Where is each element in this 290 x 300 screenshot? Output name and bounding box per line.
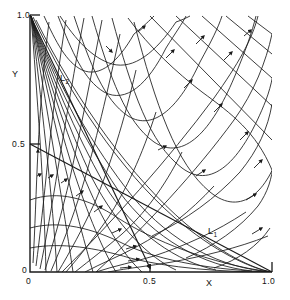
stream-arrowheads [106,26,262,234]
separatrix-label-L2: L2 [60,74,69,85]
separatrix-label-L1: L1 [208,227,217,238]
x-axis-title: X [206,279,212,288]
phase-portrait-figure: 1.0 0.5 0 0 0.5 1.0 Y X L2 L1 [0,0,290,300]
y-tick-label-05: 0.5 [12,140,25,149]
trajectory-group [30,16,280,272]
right-saddle-bundle [33,17,271,272]
x-tick-label-05: 0.5 [143,277,156,286]
L1-subscript: 1 [213,231,217,238]
plot-canvas [0,0,290,300]
y-tick-label-0: 0 [22,266,27,275]
y-tick-label-1: 1.0 [17,11,30,20]
upper-left-fan [31,16,271,272]
x-tick-label-1: 1.0 [262,277,275,286]
source-fan [33,18,268,272]
separatrix-L1 [30,144,272,272]
x-tick-label-0: 0 [26,277,31,286]
L2-subscript: 2 [65,78,69,85]
diagonal-streamlines [60,16,273,272]
y-axis-title: Y [12,70,18,79]
